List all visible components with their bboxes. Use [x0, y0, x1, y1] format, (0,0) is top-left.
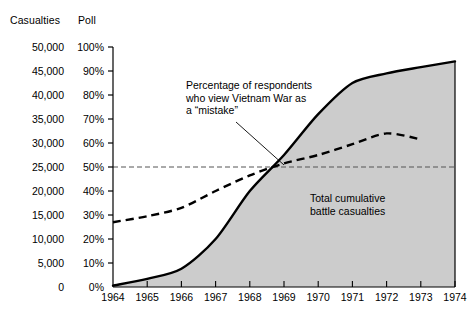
left-axis-tick-label: 20,000 — [2, 186, 64, 197]
x-axis-tick-label: 1974 — [435, 291, 470, 303]
right-axis-tick-label: 10% — [66, 258, 104, 269]
right-axis-tick-label: 60% — [66, 138, 104, 149]
left-axis-tick-label: 50,000 — [2, 42, 64, 53]
right-axis-tick-label: 100% — [66, 42, 104, 53]
left-axis-tick-label: 25,000 — [2, 162, 64, 173]
right-axis-tick-label: 30% — [66, 210, 104, 221]
left-axis-tick-label: 40,000 — [2, 90, 64, 101]
right-axis-tick-label: 20% — [66, 234, 104, 245]
right-axis-tick-label: 80% — [66, 90, 104, 101]
right-axis-tick-label: 50% — [66, 162, 104, 173]
area-annotation: Total cumulative battle casualties — [310, 192, 385, 217]
y-axis-ticks — [108, 47, 113, 263]
left-axis-tick-label: 0 — [2, 282, 64, 293]
left-axis-tick-label: 35,000 — [2, 114, 64, 125]
right-axis-tick-label: 40% — [66, 186, 104, 197]
annotation-leader-line — [236, 122, 284, 165]
left-axis-tick-label: 15,000 — [2, 210, 64, 221]
left-axis-tick-label: 5,000 — [2, 258, 64, 269]
right-axis-tick-label: 70% — [66, 114, 104, 125]
left-axis-tick-label: 10,000 — [2, 234, 64, 245]
left-axis-tick-label: 45,000 — [2, 66, 64, 77]
right-axis-tick-label: 90% — [66, 66, 104, 77]
left-axis-tick-label: 30,000 — [2, 138, 64, 149]
poll-line-annotation: Percentage of respondents who view Vietn… — [186, 79, 312, 117]
vietnam-casualties-poll-chart: Casualties Poll 05,00010,00015,00020,000… — [0, 0, 470, 315]
